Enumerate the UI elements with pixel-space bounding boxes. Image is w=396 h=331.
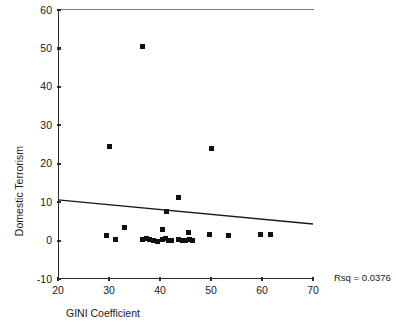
y-tick-mark [57, 124, 61, 126]
rsq-annotation: Rsq = 0.0376 [334, 272, 391, 283]
data-point [186, 230, 191, 235]
data-point [160, 227, 165, 232]
data-point [268, 232, 273, 237]
y-tick-mark [57, 201, 61, 203]
y-tick-label: 0 [22, 235, 52, 246]
data-point [164, 209, 169, 214]
data-point [176, 195, 181, 200]
y-axis-label: Domestic Terrorism [13, 116, 25, 266]
x-tick-label: 40 [140, 285, 180, 296]
data-point [226, 233, 231, 238]
data-point [122, 225, 127, 230]
x-tick-mark [108, 277, 110, 281]
y-tick-label: 30 [22, 120, 52, 131]
y-tick-label: 10 [22, 197, 52, 208]
x-tick-mark [312, 277, 314, 281]
y-tick-label: 50 [22, 43, 52, 54]
data-point [207, 232, 212, 237]
x-tick-mark [261, 277, 263, 281]
x-tick-mark [159, 277, 161, 281]
y-tick-mark [57, 86, 61, 88]
x-axis-label: GINI Coefficient [66, 307, 140, 319]
y-tick-label-text: 0 [22, 235, 52, 246]
y-tick-label-text: 50 [22, 43, 52, 54]
x-tick-label: 60 [242, 285, 282, 296]
y-tick-label-text: 30 [22, 120, 52, 131]
data-point [169, 238, 174, 243]
y-tick-label-text: -10 [22, 274, 52, 285]
x-tick-mark [57, 277, 59, 281]
y-tick-mark [57, 163, 61, 165]
data-point [258, 232, 263, 237]
y-tick-label-text: 40 [22, 81, 52, 92]
y-tick-mark [57, 240, 61, 242]
y-tick-label: 20 [22, 158, 52, 169]
scatter-plot-figure: -100102030405060 203040506070 Domestic T… [0, 0, 396, 331]
data-point [107, 144, 112, 149]
x-tick-mark [210, 277, 212, 281]
y-tick-label: -10 [22, 274, 52, 285]
data-point [104, 233, 109, 238]
y-tick-label-text: 60 [22, 5, 52, 16]
y-tick-label: 40 [22, 81, 52, 92]
data-point [140, 44, 145, 49]
data-point [190, 238, 195, 243]
x-tick-label: 70 [293, 285, 333, 296]
x-tick-label: 30 [89, 285, 129, 296]
y-tick-mark [57, 47, 61, 49]
data-point [209, 146, 214, 151]
x-tick-label: 50 [191, 285, 231, 296]
y-tick-label: 60 [22, 5, 52, 16]
data-point [113, 237, 118, 242]
y-tick-mark [57, 9, 61, 11]
x-tick-label: 20 [38, 285, 78, 296]
y-tick-label-text: 20 [22, 158, 52, 169]
y-tick-label-text: 10 [22, 197, 52, 208]
